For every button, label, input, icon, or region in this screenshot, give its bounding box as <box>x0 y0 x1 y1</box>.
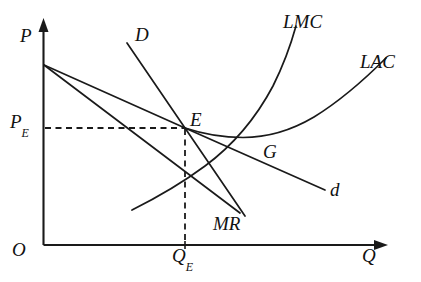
long-run-marginal-cost-curve <box>132 26 296 210</box>
long-run-average-cost-label: LAC <box>360 52 395 71</box>
x-axis-label: Q <box>362 246 376 265</box>
demand-label: d <box>330 180 340 199</box>
perceived-demand-curve-D <box>127 43 245 216</box>
y-axis-arrowhead <box>39 18 49 32</box>
intersection-point-label: G <box>263 142 277 161</box>
economics-diagram: P Q O PE QE D d MR LMC LAC E G <box>0 0 421 282</box>
equilibrium-quantity-label-subscript: E <box>186 260 193 274</box>
marginal-revenue-label: MR <box>213 214 240 233</box>
perceived-demand-label: D <box>135 25 149 44</box>
equilibrium-quantity-label: QE <box>172 246 193 269</box>
equilibrium-price-label: PE <box>10 112 29 135</box>
long-run-average-cost-curve <box>185 58 386 138</box>
guide-lines-group <box>45 128 185 249</box>
origin-label: O <box>12 240 26 259</box>
y-axis-label: P <box>20 26 32 45</box>
equilibrium-price-label-subscript: E <box>22 126 29 140</box>
equilibrium-price-label-base: P <box>10 111 22 132</box>
long-run-marginal-cost-label: LMC <box>283 12 322 31</box>
equilibrium-quantity-label-base: Q <box>172 245 186 266</box>
equilibrium-point-label: E <box>190 110 202 129</box>
x-axis-arrowhead <box>374 240 388 250</box>
diagram-canvas <box>0 0 421 282</box>
